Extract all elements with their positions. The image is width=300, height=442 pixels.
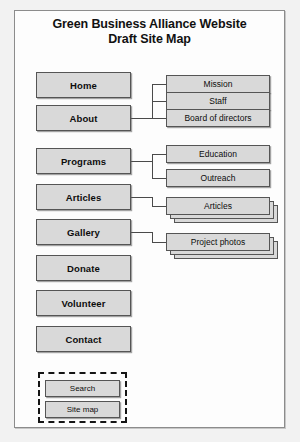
sitemap-node-about-label: About <box>70 113 98 124</box>
sitemap-node-home-label: Home <box>70 80 97 91</box>
sitemap-node-volunteer[interactable]: Volunteer <box>36 290 131 316</box>
sitemap-node-outreach-label: Outreach <box>201 173 236 183</box>
connector-about-stub <box>131 118 153 119</box>
sitemap-node-outreach[interactable]: Outreach <box>166 169 270 187</box>
connector-programs-outreach <box>152 178 166 179</box>
page-title-line-2: Draft Site Map <box>14 32 285 47</box>
sitemap-node-articles[interactable]: Articles <box>36 184 131 210</box>
connector-articles-in <box>152 206 166 207</box>
sitemap-node-staff[interactable]: Staff <box>166 92 270 110</box>
sitemap-node-staff-label: Staff <box>209 96 226 106</box>
sitemap-node-project-photos-label: Project photos <box>191 237 245 247</box>
sitemap-node-contact-label: Contact <box>65 334 101 345</box>
connector-programs-stub <box>131 161 153 162</box>
sitemap-node-project-photos-stack[interactable]: Project photos <box>166 233 270 251</box>
connector-gallery-in <box>152 242 166 243</box>
sitemap-node-site-map-label: Site map <box>67 405 99 414</box>
sitemap-node-education[interactable]: Education <box>166 145 270 163</box>
connector-programs-education <box>152 154 166 155</box>
sitemap-node-contact[interactable]: Contact <box>36 326 131 352</box>
sitemap-node-articles-pages-label: Articles <box>204 201 232 211</box>
sitemap-node-site-map[interactable]: Site map <box>45 401 120 418</box>
sitemap-node-about[interactable]: About <box>36 105 131 131</box>
sitemap-node-board-of-directors-label: Board of directors <box>184 113 251 123</box>
sitemap-node-mission[interactable]: Mission <box>166 75 270 93</box>
sitemap-node-gallery[interactable]: Gallery <box>36 219 131 245</box>
sitemap-node-articles-pages[interactable]: Articles <box>166 197 270 215</box>
sitemap-node-search-label: Search <box>70 384 95 393</box>
connector-about-board <box>152 118 166 119</box>
sitemap-node-education-label: Education <box>199 149 237 159</box>
connector-programs-bus <box>152 154 153 179</box>
sitemap-node-board-of-directors[interactable]: Board of directors <box>166 109 270 127</box>
sitemap-node-articles-pages-stack[interactable]: Articles <box>166 197 270 215</box>
sitemap-node-mission-label: Mission <box>204 79 233 89</box>
sitemap-node-project-photos[interactable]: Project photos <box>166 233 270 251</box>
sitemap-node-donate-label: Donate <box>67 263 100 274</box>
sitemap-node-programs-label: Programs <box>61 156 106 167</box>
sitemap-canvas: Green Business Alliance Website Draft Si… <box>0 0 300 442</box>
connector-about-mission <box>152 84 166 85</box>
page-title: Green Business Alliance Website Draft Si… <box>14 17 285 47</box>
sitemap-node-gallery-label: Gallery <box>67 227 100 238</box>
sitemap-node-donate[interactable]: Donate <box>36 255 131 281</box>
page-title-line-1: Green Business Alliance Website <box>52 17 246 31</box>
connector-about-staff <box>152 101 166 102</box>
sitemap-node-home[interactable]: Home <box>36 72 131 98</box>
connector-articles-stub <box>131 197 153 198</box>
connector-gallery-stub <box>131 232 153 233</box>
sitemap-node-search[interactable]: Search <box>45 380 120 397</box>
sitemap-node-programs[interactable]: Programs <box>36 148 131 174</box>
sitemap-node-articles-label: Articles <box>66 192 102 203</box>
sitemap-node-volunteer-label: Volunteer <box>61 298 105 309</box>
